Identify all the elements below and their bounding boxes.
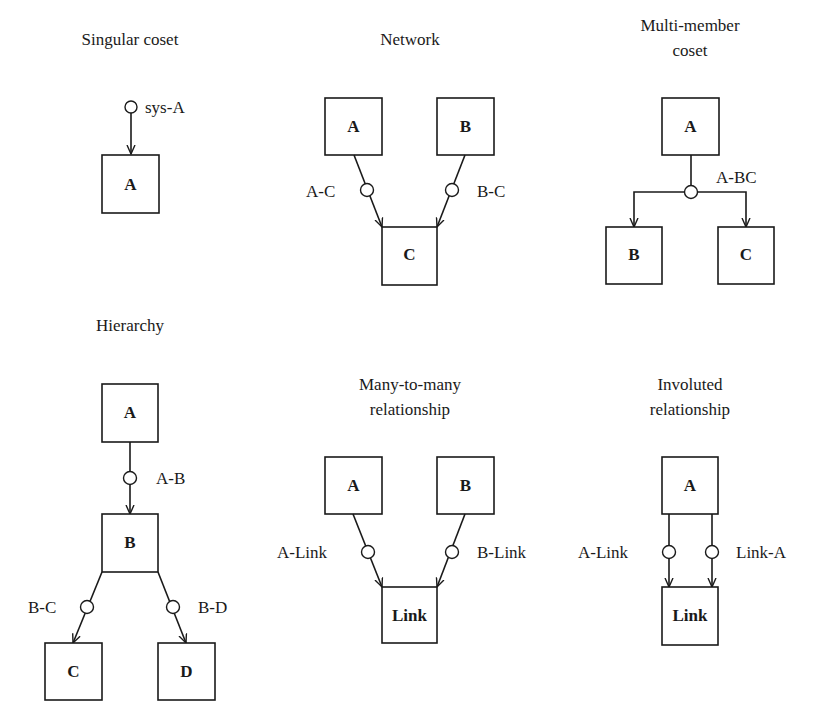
panel-title-line-2: coset — [673, 41, 708, 60]
panel-title-line-1: Multi-member — [640, 16, 739, 35]
relation-label-a-c: A-C — [306, 182, 335, 201]
panel-title: Hierarchy — [96, 316, 164, 335]
record-label-a: A — [124, 175, 137, 194]
relation-label-a-bc: A-BC — [716, 168, 757, 187]
record-label-a: A — [684, 476, 697, 495]
record-label-a: A — [347, 117, 360, 136]
record-label-link: Link — [392, 606, 428, 625]
relation-label-b-c: B-C — [28, 598, 56, 617]
panel-title: Network — [380, 30, 440, 49]
relation-node-icon — [446, 184, 459, 197]
relation-label-a-link: A-Link — [578, 543, 629, 562]
panel-hierarchy: Hierarchy A A-B B B-C B-D C D — [28, 316, 227, 700]
arrow-edge — [634, 192, 685, 227]
record-label-b: B — [124, 533, 135, 552]
panel-involuted: Involuted relationship A A-Link Link-A L… — [578, 375, 787, 645]
relation-label-a-b: A-B — [156, 469, 185, 488]
record-label-d: D — [180, 662, 192, 681]
panel-singular-coset: Singular coset sys-A A — [82, 30, 186, 213]
panel-network: Network A B A-C B-C C — [306, 30, 505, 285]
relation-label-b-d: B-D — [198, 598, 227, 617]
record-label-c: C — [403, 245, 415, 264]
relation-node-icon — [685, 186, 698, 199]
relation-label-sys-a: sys-A — [145, 98, 185, 117]
relation-node-icon — [124, 472, 137, 485]
relation-node-icon — [361, 184, 374, 197]
relation-node-icon — [81, 601, 94, 614]
relation-label-link-a: Link-A — [736, 543, 787, 562]
record-label-a: A — [124, 403, 137, 422]
relation-node-icon — [125, 101, 137, 113]
record-label-b: B — [460, 476, 471, 495]
panel-multi-member-coset: Multi-member coset A A-BC B C — [606, 16, 774, 284]
record-label-c: C — [740, 245, 752, 264]
record-label-a: A — [684, 117, 697, 136]
record-label-a: A — [347, 476, 360, 495]
relation-label-b-c: B-C — [477, 182, 505, 201]
panel-title-line-2: relationship — [370, 400, 450, 419]
panel-title-line-1: Involuted — [657, 375, 723, 394]
relation-node-icon — [362, 546, 375, 559]
relation-node-icon — [663, 546, 676, 559]
record-label-b: B — [460, 117, 471, 136]
panel-title-line-2: relationship — [650, 400, 730, 419]
relation-node-icon — [446, 546, 459, 559]
relation-label-b-link: B-Link — [477, 543, 527, 562]
panel-title-line-1: Many-to-many — [359, 375, 461, 394]
relation-node-icon — [167, 601, 180, 614]
arrow-edge — [697, 192, 746, 227]
record-label-link: Link — [673, 606, 709, 625]
relation-node-icon — [706, 546, 719, 559]
panel-many-to-many: Many-to-many relationship A B A-Link B-L… — [277, 375, 527, 643]
record-label-b: B — [628, 245, 639, 264]
panel-title: Singular coset — [82, 30, 179, 49]
record-label-c: C — [67, 662, 79, 681]
relation-label-a-link: A-Link — [277, 543, 328, 562]
coset-diagram: Singular coset sys-A A Network A B A-C B… — [0, 0, 817, 728]
